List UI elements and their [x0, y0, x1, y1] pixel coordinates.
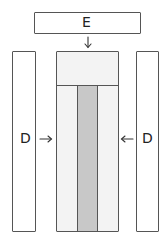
left-arrow-icon	[122, 136, 134, 142]
arrows-layer	[0, 0, 168, 239]
right-arrow-icon	[40, 136, 52, 142]
down-arrow-icon	[85, 37, 91, 48]
